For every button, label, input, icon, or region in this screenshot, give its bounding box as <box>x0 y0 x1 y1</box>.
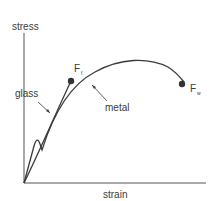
y-axis-label: stress <box>12 21 39 32</box>
metal-curve <box>24 60 184 183</box>
glass-fracture-point <box>68 78 74 84</box>
glass-label: glass <box>15 88 38 99</box>
x-axis-label: strain <box>103 189 127 200</box>
metal-failure-point <box>179 81 185 87</box>
fracture-label: F <box>74 63 80 74</box>
failure-subscript: w <box>197 90 201 96</box>
failure-label: F <box>190 83 196 94</box>
fracture-subscript: f <box>81 70 83 76</box>
metal-label: metal <box>105 102 129 113</box>
stress-strain-diagram: stress strain glass metal F f F w <box>0 0 215 201</box>
